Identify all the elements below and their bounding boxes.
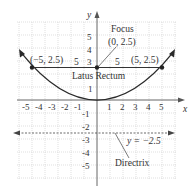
svg-text:5: 5	[159, 102, 164, 112]
svg-text:1: 1	[88, 84, 93, 94]
x-tick-labels: -5 -4 -3 -2 -1 1 2 3 4 5	[22, 102, 164, 112]
svg-text:3: 3	[87, 57, 92, 67]
focus-coords: (0, 2.5)	[108, 37, 136, 48]
svg-text:-2: -2	[61, 102, 69, 112]
y-tick-labels: 5 4 3 1 -1 -2 -3 -4 -5	[82, 32, 93, 171]
svg-text:4: 4	[87, 45, 92, 55]
svg-text:-1: -1	[74, 102, 82, 112]
svg-text:-4: -4	[35, 102, 43, 112]
svg-text:-2: -2	[82, 122, 90, 132]
x-axis-label: x	[182, 104, 188, 114]
svg-text:4: 4	[146, 102, 151, 112]
grid	[17, 22, 176, 180]
latus-right-point	[160, 65, 164, 69]
svg-text:2: 2	[120, 102, 125, 112]
svg-text:-1: -1	[82, 109, 90, 119]
focus-pointer	[98, 47, 116, 67]
svg-text:-4: -4	[82, 148, 90, 158]
latus-left-coords: (−5, 2.5)	[30, 55, 63, 66]
y-axis-label: y	[86, 10, 92, 20]
svg-text:1: 1	[107, 102, 112, 112]
svg-text:3: 3	[133, 102, 138, 112]
parabola-diagram: x y -5 -4 -3 -2 -1 1 2 3 4 5 5 4 3 1 -1 …	[0, 0, 195, 194]
y-axis	[95, 11, 100, 186]
svg-text:-3: -3	[82, 135, 90, 145]
svg-text:-5: -5	[82, 161, 90, 171]
svg-text:5: 5	[87, 32, 92, 42]
latus-left-length: 5	[74, 57, 79, 67]
latus-right-length: 5	[115, 57, 120, 67]
directrix-line	[13, 131, 175, 136]
latus-left-point	[30, 65, 34, 69]
directrix-equation: y = −2.5	[126, 136, 161, 146]
focus-title: Focus	[111, 24, 134, 34]
latus-rectum-label: Latus Rectum	[72, 71, 126, 81]
svg-text:-5: -5	[22, 102, 30, 112]
directrix-label: Directrix	[115, 158, 150, 168]
svg-text:-3: -3	[48, 102, 56, 112]
latus-right-coords: (5, 2.5)	[131, 55, 159, 66]
